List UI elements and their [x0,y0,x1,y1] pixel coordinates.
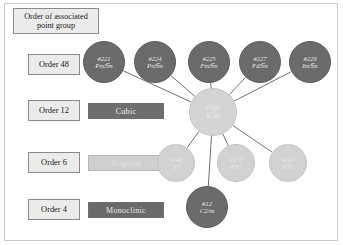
node-symbol: R3̅m [282,163,294,171]
graph-edge [229,77,245,94]
graph-node-sg12[interactable]: #12C2/m [186,186,228,228]
node-id: #12 [202,200,212,207]
graph-edge [171,76,195,97]
graph-node-sg166[interactable]: #166R3̅m [269,144,307,182]
node-symbol: Fm3̅m [200,62,217,70]
graph-node-sg227[interactable]: #227Fd3̅m [239,41,281,83]
node-symbol: R3̅m [206,112,220,121]
node-id: #227 [253,55,266,62]
node-id: #225 [202,55,215,62]
graph-node-sg221[interactable]: #221Pm3̅m [83,41,125,83]
graph-node-sg224[interactable]: #224Pn3̅m [134,41,176,83]
node-symbol: R3̅ [172,163,180,171]
node-symbol: Im3̅m [302,62,317,70]
node-id: #166 [281,156,294,163]
graph-edges [0,0,343,245]
node-symbol: Pn3̅m [147,62,163,70]
node-symbol: Pm3̅m [95,62,112,70]
graph-edge [187,131,199,147]
graph-node-sg148[interactable]: #148R3̅ [157,144,195,182]
node-id: #221 [97,55,110,62]
node-symbol: C2/m [200,207,215,215]
node-id: #155 [229,156,242,163]
diagram-canvas: Order of associated point group Order 48… [0,0,343,245]
space-group-graph: #166R3̅m#221Pm3̅m#224Pn3̅m#225Fm3̅m#227F… [0,0,343,245]
node-symbol: R32 [231,163,242,171]
node-id: #224 [148,55,161,62]
graph-edge [208,136,211,186]
graph-node-sg225[interactable]: #225Fm3̅m [188,41,230,83]
graph-edge [223,134,228,146]
graph-node-sg229[interactable]: #229Im3̅m [289,41,331,83]
node-id: #148 [169,156,182,163]
graph-node-sg166[interactable]: #166R3̅m [189,88,237,136]
graph-node-sg155[interactable]: #155R32 [217,144,255,182]
node-id: #229 [303,55,316,62]
node-symbol: Fd3̅m [252,62,268,70]
